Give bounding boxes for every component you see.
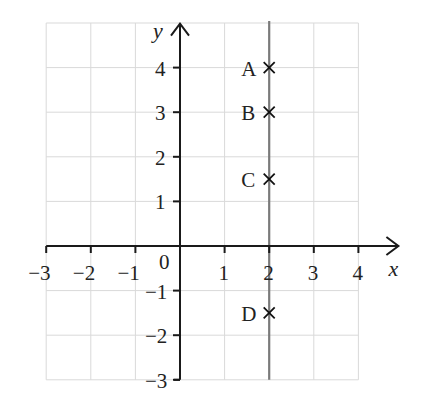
y-tick-label: 3 (155, 101, 166, 125)
y-tick-label: 2 (155, 146, 166, 170)
x-tick-label: 4 (352, 261, 363, 285)
y-tick-label: 1 (155, 190, 166, 214)
x-tick-label: −2 (73, 261, 95, 285)
x-tick-label: −3 (28, 261, 50, 285)
point-label: B (241, 101, 255, 125)
x-tick-label: 2 (263, 261, 274, 285)
y-axis-label: y (151, 18, 163, 43)
point-label: C (241, 168, 255, 192)
x-tick-label: 1 (219, 261, 230, 285)
point-label: A (241, 57, 257, 81)
x-tick-label: 3 (308, 261, 319, 285)
x-tick-label: −1 (117, 261, 139, 285)
x-axis-label: x (387, 256, 398, 281)
y-tick-label: −1 (145, 280, 167, 304)
origin-label: 0 (159, 250, 170, 274)
y-tick-label: −3 (145, 369, 167, 393)
y-tick-label: 4 (155, 57, 166, 81)
coordinate-plane: xy −3−2−112340−3−2−11234 ABCD (0, 0, 427, 416)
grid (46, 23, 358, 380)
point-label: D (241, 302, 256, 326)
axes: xy (46, 18, 398, 380)
y-tick-label: −2 (145, 324, 167, 348)
axis-ticks: −3−2−112340−3−2−11234 (28, 57, 363, 393)
